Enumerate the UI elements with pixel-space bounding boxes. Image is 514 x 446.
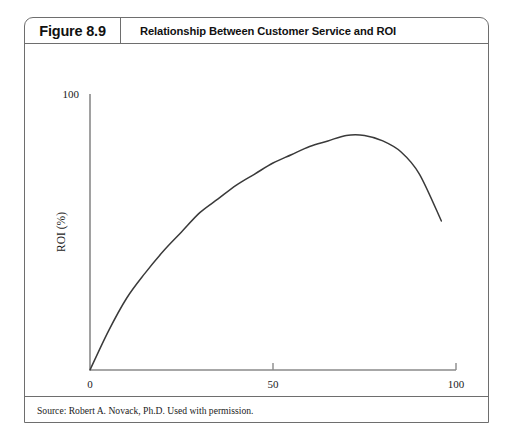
roi-service-level-chart: 100 0 50 100 ROI (%) <box>25 44 488 396</box>
plot-area: 100 0 50 100 ROI (%) Service Level (%) <box>25 44 488 396</box>
x-axis-origin-label: 0 <box>87 378 93 390</box>
figure-number-label: Figure 8.9 <box>25 18 120 43</box>
y-axis-max-label: 100 <box>63 88 80 100</box>
x-axis-max-label: 100 <box>448 378 465 390</box>
figure-footer: Source: Robert A. Novack, Ph.D. Used wit… <box>25 396 488 423</box>
source-note: Source: Robert A. Novack, Ph.D. Used wit… <box>37 405 253 416</box>
figure-title: Relationship Between Customer Service an… <box>121 18 488 43</box>
figure-header: Figure 8.9 Relationship Between Customer… <box>25 18 488 44</box>
roi-curve <box>90 135 441 370</box>
x-axis-mid-label: 50 <box>268 378 280 390</box>
figure-card: Figure 8.9 Relationship Between Customer… <box>24 17 489 423</box>
y-axis-title: ROI (%) <box>55 212 68 252</box>
